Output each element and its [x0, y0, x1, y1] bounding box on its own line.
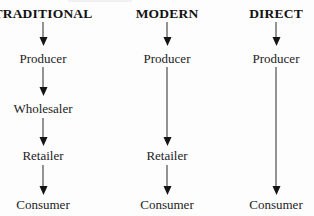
arrow-down-icon — [39, 22, 48, 46]
stage-retailer: Retailer — [117, 148, 217, 164]
arrow-down-icon — [272, 67, 281, 195]
arrow-down-icon — [163, 165, 172, 195]
column-direct-title: DIRECT — [226, 6, 314, 22]
stage-retailer: Retailer — [0, 148, 93, 164]
arrow-down-icon — [39, 118, 48, 146]
arrow-down-icon — [39, 165, 48, 195]
arrow-down-icon — [272, 22, 281, 46]
column-modern-title: MODERN — [117, 6, 217, 22]
column-modern: MODERN Producer Retailer Consumer — [117, 0, 217, 216]
stage-consumer: Consumer — [117, 197, 217, 213]
arrow-down-icon — [163, 22, 172, 46]
stage-producer: Producer — [0, 51, 93, 67]
stage-consumer: Consumer — [226, 197, 314, 213]
stage-consumer: Consumer — [0, 197, 93, 213]
distribution-channels-diagram: TRADITIONAL Producer Wholesaler Retailer… — [0, 0, 314, 216]
column-direct: DIRECT Producer Consumer — [226, 0, 314, 216]
column-traditional: TRADITIONAL Producer Wholesaler Retailer… — [0, 0, 93, 216]
arrow-down-icon — [163, 67, 172, 146]
column-traditional-title: TRADITIONAL — [0, 6, 93, 22]
arrow-down-icon — [39, 67, 48, 96]
stage-wholesaler: Wholesaler — [0, 101, 93, 117]
stage-producer: Producer — [117, 51, 217, 67]
stage-producer: Producer — [226, 51, 314, 67]
